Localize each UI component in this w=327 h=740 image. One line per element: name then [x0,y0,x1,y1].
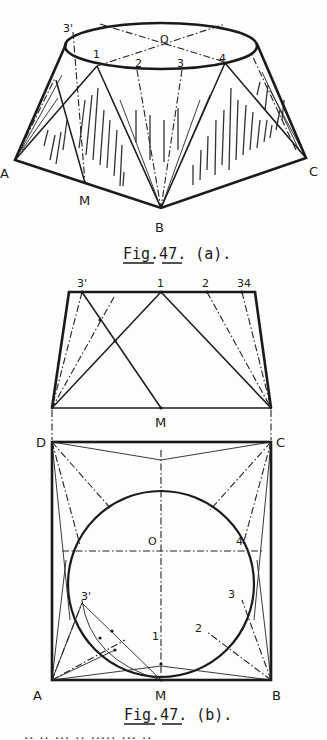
engineering-drawing: 3' O 1 2 3 4 A M B C Fig.47. (a). 3' 1 [0,0,327,740]
label-2: 2 [195,622,202,635]
label-1: 1 [157,277,164,290]
label-3-4: 34 [237,277,251,290]
figure-47b-plan: D C A M B O 4 3' 3 2 1 Fig.47. (b). [33,435,285,724]
label-M: M [79,193,90,208]
label-B: B [155,220,164,235]
label-4: 4 [236,535,243,548]
label-B: B [272,688,281,703]
label-O: O [148,535,157,548]
label-1: 1 [152,630,159,643]
caption-fig-47a: Fig.47. (a). [123,245,231,263]
label-1: 1 [93,48,100,61]
label-4: 4 [219,52,226,65]
label-C: C [276,435,285,450]
label-3prime: 3' [81,590,91,603]
figure-47b-elevation: 3' 1 2 34 M [52,277,271,440]
textbook-page: 3' O 1 2 3 4 A M B C Fig.47. (a). 3' 1 [0,0,327,740]
label-3prime: 3' [77,277,87,290]
label-C: C [309,164,318,179]
label-M: M [155,415,166,430]
figure-47a: 3' O 1 2 3 4 A M B C Fig.47. (a). [0,22,318,263]
label-3: 3 [177,57,184,70]
caption-fig-47b: Fig.47. (b). [124,706,232,724]
label-2: 2 [202,277,209,290]
label-2: 2 [135,57,142,70]
top-ellipse [65,23,257,69]
label-3: 3 [228,588,235,601]
truncated-body-text: ·· ·· ··· ·· ····· ··· ·· [24,731,152,740]
label-O: O [160,33,169,46]
label-D: D [36,435,46,450]
label-M: M [155,688,166,703]
hatching [44,82,284,186]
label-A: A [33,688,42,703]
label-A: A [0,166,9,181]
label-3prime: 3' [63,22,73,35]
